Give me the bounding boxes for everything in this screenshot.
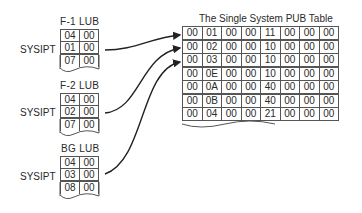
arrow-f1-to-pub <box>105 35 180 50</box>
bg-torn-edge <box>60 194 99 199</box>
pub-torn-edge <box>182 121 275 127</box>
f2-torn-edge <box>60 131 99 136</box>
f1-torn-edge <box>60 67 99 72</box>
diagram-connectors <box>0 0 362 213</box>
arrow-f2-to-pub <box>105 48 180 113</box>
